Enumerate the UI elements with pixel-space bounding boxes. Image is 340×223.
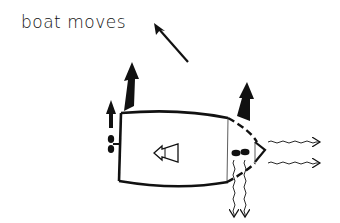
bow-thrust-arrow-icon: [237, 82, 254, 121]
direction-arrow-icon: [154, 144, 178, 162]
water-jet-down-icon: [233, 160, 246, 217]
stern-propeller-icon: [108, 135, 120, 153]
boat-hull: [119, 111, 228, 186]
movement-arrow-icon: [154, 23, 188, 62]
water-jet-right-icon: [268, 141, 320, 164]
stern-thrust-arrow-icon: [124, 62, 139, 111]
bow-thruster-icon: [232, 149, 250, 156]
small-thrust-arrow-icon: [106, 100, 116, 128]
boat-diagram: [0, 0, 340, 223]
